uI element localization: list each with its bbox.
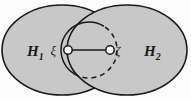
node-label-zeta: ζ — [115, 43, 121, 58]
node-zeta-marker — [106, 46, 114, 54]
venn-diagram-figure: H1 H2 ξ ζ — [0, 0, 191, 100]
node-xi-marker — [64, 46, 72, 54]
region-label-h1-subscript: 1 — [39, 51, 44, 62]
figure-canvas: H1 H2 ξ ζ — [0, 0, 191, 100]
node-label-xi: ξ — [50, 43, 56, 58]
region-label-h2-subscript: 2 — [155, 51, 161, 62]
